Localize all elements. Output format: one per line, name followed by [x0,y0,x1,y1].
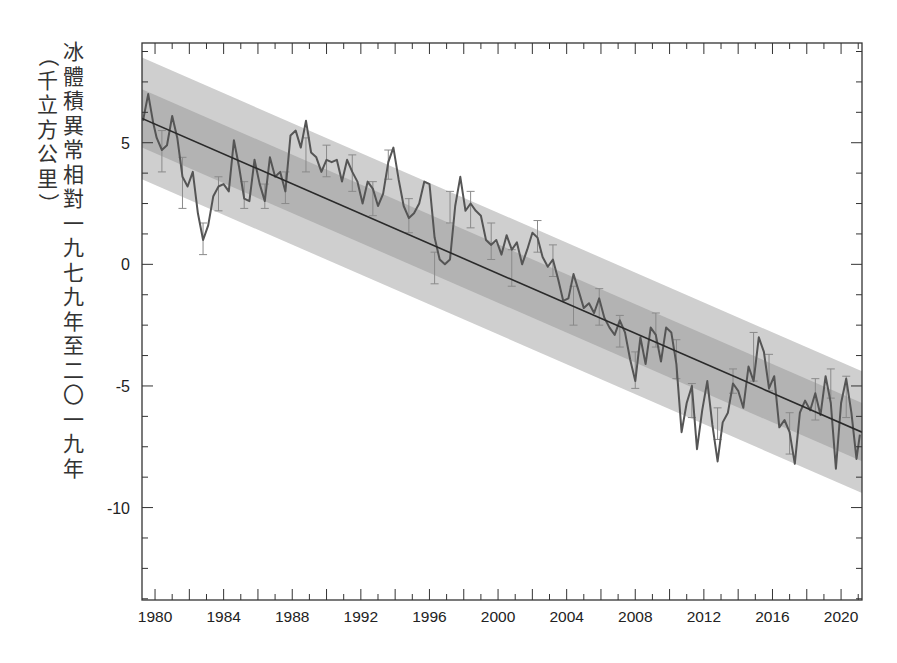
x-tick-label: 1980 [138,608,173,625]
x-tick-label: 2012 [687,608,721,625]
y-tick-label: -5 [116,378,130,395]
y-tick-label: 5 [121,135,130,152]
trend-line [142,118,862,432]
y-tick-label: -10 [107,500,130,517]
x-tick-label: 1996 [412,608,446,625]
y-axis-unit: （千立方公里） [37,44,58,216]
x-tick-label: 2020 [824,608,859,625]
y-tick-label: 0 [121,256,130,273]
x-tick-label: 1988 [275,608,309,625]
ice-volume-anomaly-chart: 1980198419881992199620002004200820122016… [0,0,897,663]
x-tick-label: 2000 [481,608,516,625]
x-tick-label: 1984 [206,608,241,625]
x-tick-label: 1992 [344,608,378,625]
x-tick-label: 2008 [618,608,652,625]
linear-trend [142,118,862,432]
x-tick-label: 2016 [755,608,789,625]
x-tick-label: 2004 [549,608,584,625]
y-axis-title: 冰體積異常相對一九七九年至二〇一九年 [63,40,84,481]
